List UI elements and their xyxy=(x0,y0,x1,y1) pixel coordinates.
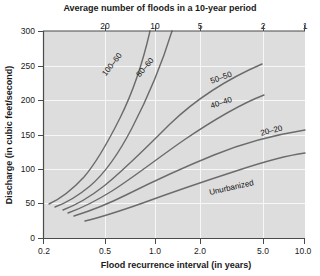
y-tick-label-100: 100 xyxy=(21,164,35,174)
top-tick-label-1: 1 xyxy=(303,21,308,31)
flood-discharge-chart: Average number of floods in a 10-year pe… xyxy=(0,0,320,276)
y-tick-label-250: 250 xyxy=(21,61,35,71)
y-axis-title: Discharge (in cubic feet/second) xyxy=(4,66,14,205)
y-tick-label-0: 0 xyxy=(30,233,35,243)
chart-page: Average number of floods in a 10-year pe… xyxy=(0,0,320,276)
x-axis-title: Flood recurrence interval (in years) xyxy=(101,260,252,270)
x-tick-label-2-0: 2.0 xyxy=(194,246,206,256)
y-tick-label-150: 150 xyxy=(21,130,35,140)
x-tick-label-5-0: 5.0 xyxy=(257,246,269,256)
x-tick-label-0-2: 0.2 xyxy=(38,246,50,256)
chart-top-title: Average number of floods in a 10-year pe… xyxy=(63,3,256,13)
y-axis-tick-labels: 300 250 200 150 100 50 0 xyxy=(21,26,35,243)
y-tick-label-300: 300 xyxy=(21,26,35,36)
y-tick-label-200: 200 xyxy=(21,95,35,105)
x-tick-label-0-5: 0.5 xyxy=(99,246,111,256)
x-tick-label-10-0: 10.0 xyxy=(295,246,312,256)
top-axis-tick-labels: 20 10 5 2 1 xyxy=(100,21,307,31)
top-axis-ticks xyxy=(106,25,305,31)
x-tick-label-1-0: 1.0 xyxy=(149,246,161,256)
y-axis-ticks xyxy=(38,32,43,239)
y-tick-label-50: 50 xyxy=(26,198,36,208)
x-axis-tick-labels: 0.2 0.5 1.0 2.0 5.0 10.0 xyxy=(38,246,311,256)
